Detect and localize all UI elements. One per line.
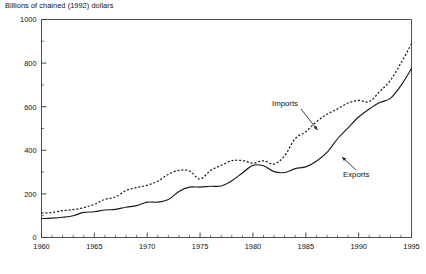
x-tick-label: 1965 — [86, 242, 102, 251]
x-tick-label: 1990 — [350, 242, 366, 251]
y-tick-label: 1000 — [20, 15, 36, 24]
x-tick-label: 1985 — [298, 242, 314, 251]
y-axis-ticks — [42, 20, 47, 238]
x-tick-label: 1995 — [403, 242, 419, 251]
y-tick-label: 400 — [24, 146, 36, 155]
y-tick-label: 600 — [24, 103, 36, 112]
annotation-label-exports: Exports — [343, 170, 370, 179]
series-line-exports — [42, 69, 412, 219]
y-axis-tick-labels: 02004006008001000 — [20, 15, 36, 242]
data-series-lines — [42, 44, 412, 219]
y-tick-label: 200 — [24, 190, 36, 199]
x-axis-tick-labels: 19601965197019751980198519901995 — [33, 242, 419, 251]
x-tick-label: 1960 — [33, 242, 49, 251]
y-tick-label: 0 — [32, 233, 36, 242]
x-tick-label: 1980 — [245, 242, 261, 251]
series-annotations: ImportsExports — [272, 99, 370, 179]
plot-frame — [42, 20, 412, 238]
annotation-label-imports: Imports — [272, 99, 298, 108]
x-axis-ticks — [42, 233, 412, 238]
x-tick-label: 1975 — [192, 242, 208, 251]
series-line-imports — [42, 44, 412, 213]
line-chart-plot: 19601965197019751980198519901995 0200400… — [0, 0, 426, 274]
x-tick-label: 1970 — [139, 242, 155, 251]
chart-figure: Billions of chained (1992) dollars 19601… — [0, 0, 426, 274]
y-tick-label: 800 — [24, 59, 36, 68]
